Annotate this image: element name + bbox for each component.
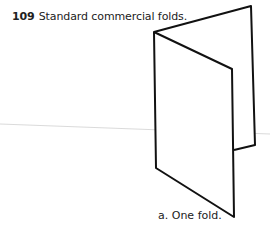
one-fold-illustration [0,0,270,230]
subfigure-caption: a. One fold. [158,209,222,222]
